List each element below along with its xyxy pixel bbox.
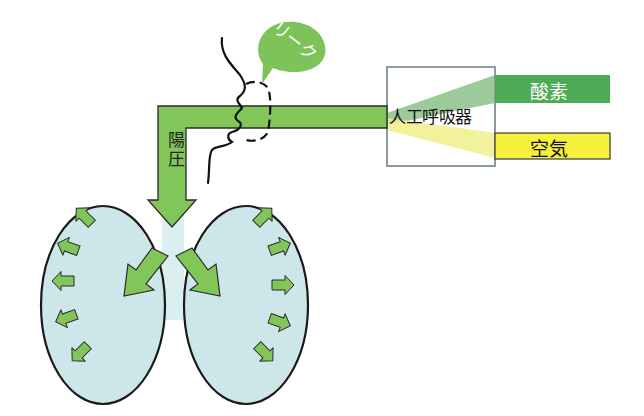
oxygen-label: 酸素: [530, 77, 568, 104]
left-lung: [41, 206, 165, 404]
ventilation-diagram: [0, 0, 644, 416]
positive-pressure-label: 陽圧: [163, 131, 188, 169]
right-lung: [184, 206, 308, 404]
air-label: 空気: [530, 134, 568, 161]
ventilator-label: 人工呼吸器: [389, 103, 472, 128]
